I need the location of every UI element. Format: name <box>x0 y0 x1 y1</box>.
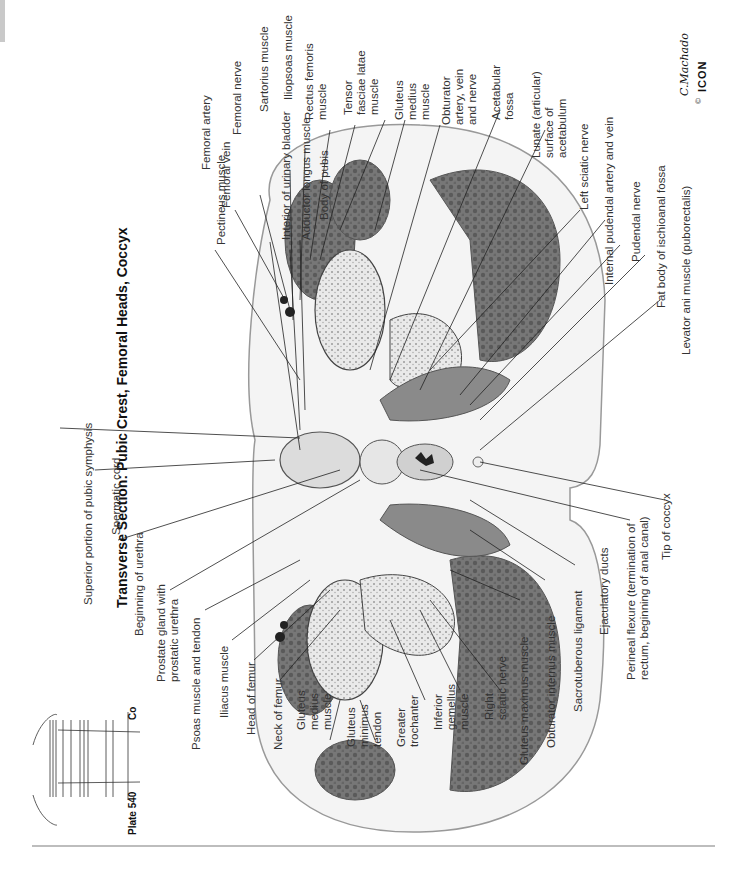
label-superior-pubic-symphysis: Superior portion of pubic symphysis <box>82 423 95 605</box>
label-gluteus-minimus-tendon: Gluteus minimus tendon <box>345 704 384 747</box>
label-internal-pudendal: Internal pudendal artery and vein <box>603 117 616 285</box>
label-sartorius: Sartorius muscle <box>258 26 271 112</box>
plate-reference: Plate 540 <box>126 792 139 835</box>
anatomy-illustration <box>0 0 745 885</box>
label-spermatic-cord: Spermatic cord <box>110 458 123 535</box>
label-iliopsoas: Iliopsoas muscle <box>282 15 295 100</box>
label-adductor-longus: Adductor longus muscle <box>300 117 313 240</box>
label-tip-of-coccyx: Tip of coccyx <box>660 493 673 560</box>
label-gluteus-medius-left: Gluteus medius muscle <box>393 80 432 120</box>
label-acetabular-fossa: Acetabular fossa <box>490 65 516 120</box>
label-levator-ani: Levator ani muscle (puborectalis) <box>680 186 693 355</box>
label-left-sciatic-nerve: Left sciatic nerve <box>578 124 591 210</box>
label-femoral-nerve: Femoral nerve <box>231 61 244 135</box>
copyright-symbol: © <box>692 98 705 104</box>
label-psoas: Psoas muscle and tendon <box>190 618 203 750</box>
label-rectus-femoris: Rectus femoris muscle <box>303 43 329 120</box>
publisher-logo: ICON <box>696 61 708 93</box>
label-beginning-urethra: Beginning of urethra <box>133 532 146 636</box>
label-inferior-gemellus: Inferior gemellus muscle <box>432 684 471 730</box>
label-head-of-femur: Head of femur <box>245 662 258 735</box>
label-pudendal-nerve: Pudendal nerve <box>630 181 643 262</box>
label-ejaculatory-ducts: Ejaculatory ducts <box>598 547 611 635</box>
label-iliacus: Iliacus muscle <box>218 646 231 718</box>
label-gluteus-maximus: Gluteus maximus muscle <box>518 637 531 765</box>
level-marker: Co <box>126 707 139 720</box>
label-fat-body-ischioanal: Fat body of ischioanal fossa <box>655 165 668 308</box>
label-femoral-vein: Femoral vein <box>220 142 233 208</box>
level-key-diagram <box>33 712 140 825</box>
artist-signature: C.Machado <box>678 33 691 96</box>
label-right-sciatic-nerve: Right sciatic nerve <box>483 656 509 720</box>
label-neck-of-femur: Neck of femur <box>272 678 285 750</box>
label-body-of-pubis: Body of pubis <box>318 150 331 220</box>
label-greater-trochanter: Greater trochanter <box>395 695 421 747</box>
label-lunate-surface: Lunate (articular) surface of acetabulum <box>530 71 569 158</box>
label-perineal-flexure: Perineal flexure (termination of rectum,… <box>625 516 651 680</box>
label-tensor-fasciae-latae: Tensor fasciae latae muscle <box>342 50 381 115</box>
label-prostate: Prostate gland with prostatic urethra <box>155 584 181 682</box>
label-femoral-artery: Femoral artery <box>200 95 213 170</box>
label-interior-urinary-bladder: Interior of urinary bladder <box>280 112 293 240</box>
label-obturator-avn: Obturator artery, vein and nerve <box>440 69 479 125</box>
label-obturator-internus: Obturator internus muscle <box>545 616 558 748</box>
label-gluteus-medius-right: Gluteus medius muscle <box>295 690 334 730</box>
label-sacrotuberous: Sacrotuberous ligament <box>572 591 585 712</box>
